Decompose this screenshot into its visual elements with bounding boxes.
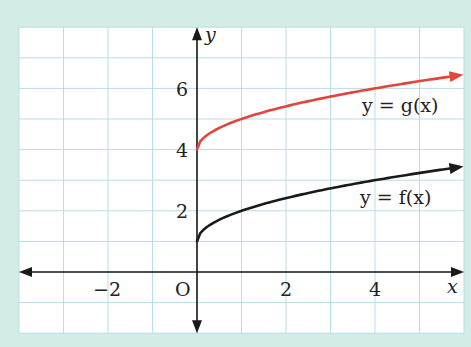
y-axis-label: y — [205, 25, 216, 44]
y-tick-label: 2 — [176, 202, 188, 221]
g-label-y: y — [362, 94, 373, 116]
y-tick-label: 4 — [176, 141, 188, 160]
f-label-eq: = — [371, 186, 399, 208]
g-curve-label: y = g(x) — [362, 96, 438, 115]
g-label-eq: = — [373, 94, 401, 116]
g-label-fn: g(x) — [401, 94, 439, 116]
f-curve-label: y = f(x) — [360, 188, 431, 207]
plot-area — [0, 0, 471, 347]
f-label-fn: f(x) — [399, 186, 432, 208]
x-tick-label: 4 — [369, 280, 381, 299]
f-label-y: y — [360, 186, 371, 208]
x-axis-label: x — [447, 277, 458, 296]
x-tick-label: 2 — [280, 280, 292, 299]
x-tick-label: −2 — [93, 280, 121, 299]
origin-label: O — [175, 280, 191, 299]
function-graph: y x O −2 2 4 6 4 2 y = g(x) y = f(x) — [0, 0, 471, 347]
y-tick-label: 6 — [176, 80, 188, 99]
